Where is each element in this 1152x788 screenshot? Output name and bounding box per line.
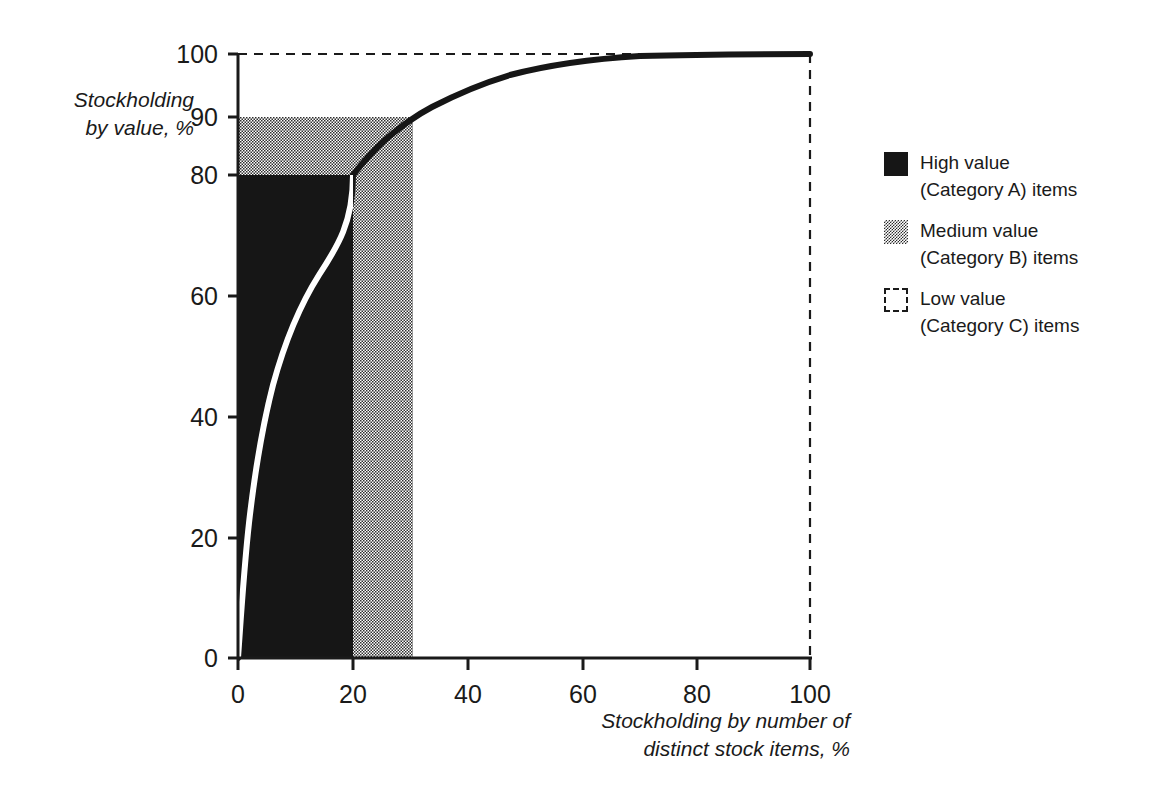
x-tick-label-60: 60 bbox=[569, 682, 597, 707]
x-axis-title-line2: distinct stock items, % bbox=[470, 735, 850, 763]
y-tick-label-20: 20 bbox=[160, 526, 218, 551]
y-axis-title: Stockholding by value, % bbox=[24, 86, 194, 141]
x-tick-label-100: 100 bbox=[789, 682, 831, 707]
x-tick-label-80: 80 bbox=[683, 682, 711, 707]
legend-label-category-a-line1: High value bbox=[920, 150, 1077, 177]
legend-label-category-b-line1: Medium value bbox=[920, 218, 1078, 245]
y-tick-label-80: 80 bbox=[160, 163, 218, 188]
x-axis-title: Stockholding by number of distinct stock… bbox=[470, 707, 850, 762]
legend-label-category-c-line1: Low value bbox=[920, 286, 1079, 313]
chart-legend: High value (Category A) items Medium val… bbox=[884, 150, 1146, 354]
legend-item-category-b: Medium value (Category B) items bbox=[884, 218, 1146, 272]
x-axis-ticks bbox=[238, 658, 810, 670]
legend-label-category-a: High value (Category A) items bbox=[920, 150, 1077, 204]
x-axis-title-line1: Stockholding by number of bbox=[470, 707, 850, 735]
legend-label-category-b-line2: (Category B) items bbox=[920, 245, 1078, 272]
legend-label-category-c-line2: (Category C) items bbox=[920, 313, 1079, 340]
legend-label-category-a-line2: (Category A) items bbox=[920, 177, 1077, 204]
legend-swatch-dashed-icon bbox=[884, 288, 908, 312]
y-tick-label-100: 100 bbox=[160, 42, 218, 67]
x-tick-label-0: 0 bbox=[231, 682, 245, 707]
legend-swatch-gray-icon bbox=[884, 220, 908, 244]
legend-label-category-b: Medium value (Category B) items bbox=[920, 218, 1078, 272]
y-tick-label-60: 60 bbox=[160, 284, 218, 309]
y-tick-label-40: 40 bbox=[160, 405, 218, 430]
legend-item-category-a: High value (Category A) items bbox=[884, 150, 1146, 204]
y-axis-title-line2: by value, % bbox=[24, 114, 194, 142]
legend-label-category-c: Low value (Category C) items bbox=[920, 286, 1079, 340]
pareto-abc-chart: 100 90 80 60 40 20 0 0 20 40 60 80 100 S… bbox=[0, 0, 1152, 788]
x-tick-label-40: 40 bbox=[454, 682, 482, 707]
legend-swatch-black-icon bbox=[884, 152, 908, 176]
y-tick-label-0: 0 bbox=[160, 646, 218, 671]
legend-item-category-c: Low value (Category C) items bbox=[884, 286, 1146, 340]
x-tick-label-20: 20 bbox=[339, 682, 367, 707]
y-axis-title-line1: Stockholding bbox=[24, 86, 194, 114]
